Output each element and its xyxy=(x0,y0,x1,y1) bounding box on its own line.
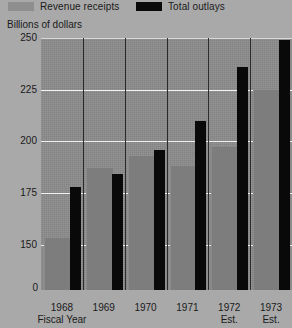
y-tick-label-150: 150 xyxy=(0,239,41,250)
legend-label-revenue-receipts: Revenue receipts xyxy=(40,1,119,12)
x-axis-title: Fiscal Year xyxy=(35,314,89,325)
y-tick-zero: 0 xyxy=(0,282,42,293)
legend-item-revenue-receipts: Revenue receipts xyxy=(8,1,119,12)
legend-swatch-total-outlays xyxy=(136,2,162,11)
y-tick-label-250: 250 xyxy=(0,32,41,43)
bar-outlays-1968 xyxy=(70,187,81,290)
x-axis: 0 1968Fiscal Year1969197019711972Est.197… xyxy=(0,292,292,328)
chart-legend: Revenue receipts Total outlays xyxy=(0,0,292,16)
y-axis-title: Billions of dollars xyxy=(7,19,82,30)
legend-label-total-outlays: Total outlays xyxy=(168,1,225,12)
bar-revenue-1971 xyxy=(170,166,197,290)
bar-outlays-1972 xyxy=(237,67,248,290)
bar-revenue-1970 xyxy=(128,156,155,290)
bar-revenue-1968 xyxy=(44,238,71,290)
chart-root: Revenue receipts Total outlays Billions … xyxy=(0,0,292,328)
bar-revenue-1969 xyxy=(86,168,113,290)
x-axis-label-1973: 1973Est. xyxy=(244,302,292,325)
bar-outlays-1973 xyxy=(279,40,290,290)
bar-revenue-1973 xyxy=(253,90,280,290)
group-separator-1972 xyxy=(208,38,209,290)
plot-wrapper: 250225200175150 xyxy=(0,30,292,292)
y-tick-label-175: 175 xyxy=(0,187,41,198)
group-separator-1973 xyxy=(250,38,251,290)
y-tick-label-225: 225 xyxy=(0,84,41,95)
group-separator-1970 xyxy=(125,38,126,290)
legend-item-total-outlays: Total outlays xyxy=(136,1,225,12)
legend-swatch-revenue-receipts xyxy=(8,2,34,11)
y-tick-label-200: 200 xyxy=(0,135,41,146)
group-separator-1969 xyxy=(83,38,84,290)
plot-area xyxy=(41,38,292,290)
bar-outlays-1970 xyxy=(154,150,165,290)
bar-outlays-1971 xyxy=(195,121,206,290)
bar-outlays-1969 xyxy=(112,174,123,290)
group-separator-1971 xyxy=(167,38,168,290)
x-axis-estimate-note: Est. xyxy=(244,314,292,325)
x-axis-year: 1973 xyxy=(244,302,292,314)
bar-revenue-1972 xyxy=(211,147,238,290)
